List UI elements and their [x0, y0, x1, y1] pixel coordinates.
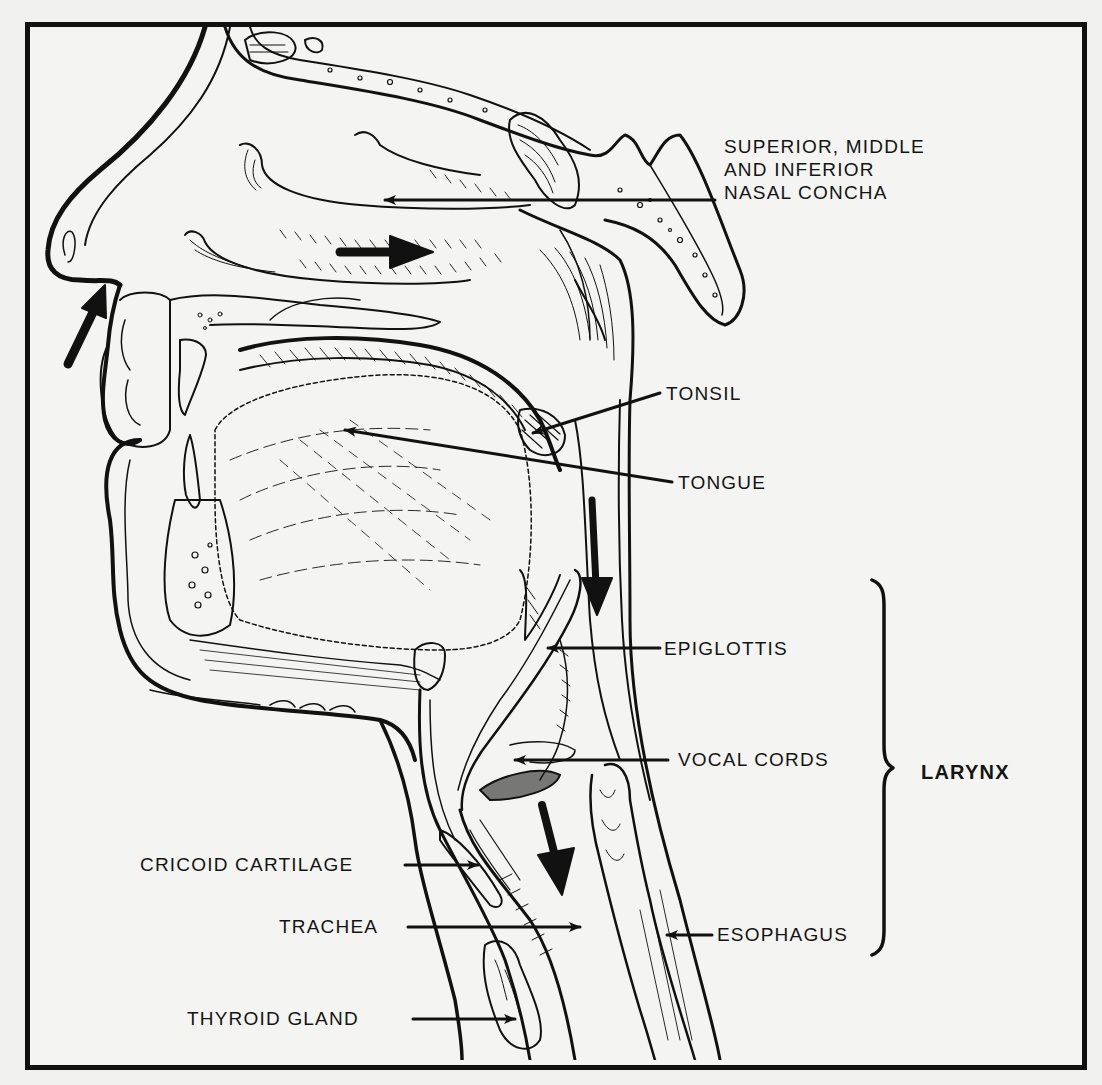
label-tongue: TONGUE	[678, 472, 766, 494]
label-tonsil: TONSIL	[666, 383, 741, 405]
nostril-inflow-arrow	[68, 285, 106, 364]
bone-stipple	[328, 68, 717, 297]
larynx-bracket	[872, 580, 893, 955]
upper-incisor	[179, 340, 206, 415]
neck-front	[380, 720, 462, 1060]
sphenoid-sinus	[509, 113, 579, 208]
superior-concha	[355, 132, 480, 175]
label-nasal-concha-line-3: NASAL CONCHA	[724, 181, 925, 204]
lower-incisor	[184, 435, 200, 508]
leader-tongue	[345, 430, 672, 482]
thyroid-gland	[484, 941, 541, 1049]
mouth-floor-muscle	[190, 640, 440, 690]
label-esophagus: ESOPHAGUS	[717, 924, 848, 946]
leader-tonsil	[533, 393, 660, 433]
label-epiglottis: EPIGLOTTIS	[664, 638, 788, 660]
label-larynx: LARYNX	[921, 761, 1010, 783]
mandible-bone	[165, 500, 235, 636]
label-cricoid-cartilage: CRICOID CARTILAGE	[140, 854, 353, 876]
label-nasal-concha-line-1: SUPERIOR, MIDDLE	[724, 135, 925, 158]
label-nasal-concha: SUPERIOR, MIDDLE AND INFERIOR NASAL CONC…	[724, 135, 925, 204]
skull-base	[225, 27, 744, 325]
label-trachea: TRACHEA	[279, 916, 378, 938]
nasal-cavity-arrow	[340, 236, 433, 268]
frontal-sinus	[245, 32, 323, 63]
trachea-arrow	[538, 805, 574, 895]
label-nasal-concha-line-2: AND INFERIOR	[724, 158, 925, 181]
label-vocal-cords: VOCAL CORDS	[678, 749, 829, 771]
hard-palate	[170, 295, 440, 329]
leader-lines	[345, 200, 715, 1019]
vocal-cords	[480, 742, 575, 800]
tongue	[215, 375, 531, 650]
nose-outline	[48, 27, 230, 444]
soft-palate	[240, 338, 560, 470]
esophagus	[590, 764, 695, 1060]
label-thyroid-gland: THYROID GLAND	[187, 1008, 359, 1030]
lower-lip-chin	[106, 440, 415, 760]
cricoid-cartilage	[440, 830, 502, 907]
posterior-pharynx	[575, 400, 650, 800]
anatomy-illustration	[0, 0, 1102, 1085]
pharyngeal-wall	[520, 210, 720, 1060]
